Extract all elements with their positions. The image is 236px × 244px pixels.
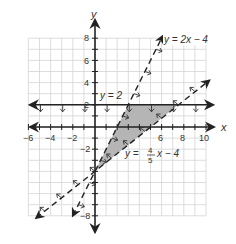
inequality-graph: y x −6 −4 −2 6 8 10 8 6 4 2 −2 −8 y = 2x… (0, 0, 236, 244)
y-axis-label: y (90, 8, 98, 20)
tick-label-y: 6 (84, 56, 89, 66)
svg-text:4: 4 (148, 146, 153, 155)
tick-label-y: −2 (80, 144, 90, 154)
tick-label-x: −2 (67, 133, 77, 143)
tick-label-x: −4 (45, 133, 55, 143)
x-axis-label: x (220, 121, 227, 133)
equation-label-2x-minus-4: y = 2x − 4 (163, 34, 208, 45)
svg-text:x − 4: x − 4 (156, 148, 179, 159)
tick-label-x: −6 (23, 133, 33, 143)
tick-label-y: 4 (84, 78, 89, 88)
tick-label-x: 6 (158, 133, 163, 143)
tick-label-y: −8 (80, 211, 90, 221)
tick-label-x: 10 (199, 133, 209, 143)
tick-label-y: 8 (84, 33, 89, 43)
svg-text:5: 5 (148, 156, 153, 165)
equation-label-four-fifths: y = 4 5 x − 4 (124, 146, 179, 165)
equation-label-y-equals-2: y = 2 (99, 90, 122, 101)
svg-text:y =: y = (124, 148, 139, 159)
tick-label-x: 8 (180, 133, 185, 143)
tick-label-y: 2 (84, 100, 89, 110)
